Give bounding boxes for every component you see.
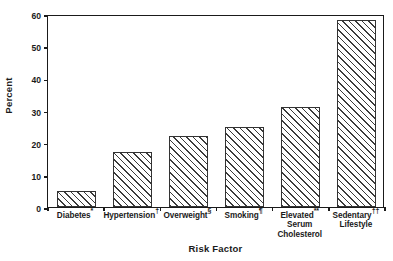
x-axis-category-label: Overweight§: [155, 211, 219, 220]
bar: [57, 191, 96, 207]
plot-frame: 0102030405060: [47, 15, 384, 208]
bar-chart-figure: Percent 0102030405060 Diabetes*Hypertens…: [0, 0, 393, 261]
category-label-footnote-marker: ¶: [259, 207, 263, 214]
x-axis-category-label: Hypertension†: [99, 211, 163, 220]
category-label-line1: Sedentary: [332, 211, 371, 220]
y-axis-tick-label: 0: [36, 203, 41, 215]
category-label-line1: Overweight: [163, 211, 207, 220]
bar: [337, 20, 376, 207]
category-label-line1: Diabetes: [57, 211, 91, 220]
y-axis-tick-mark: [44, 15, 48, 16]
y-axis-tick-label: 30: [31, 107, 41, 119]
category-label-line2: Lifestyle: [324, 220, 388, 229]
plot-area: 0102030405060: [48, 16, 383, 207]
y-axis-tick-mark: [44, 112, 48, 113]
bar: [169, 136, 208, 207]
y-axis-tick-label: 10: [31, 171, 41, 183]
bar: [113, 152, 152, 207]
x-axis-category-label: Sedentary††Lifestyle: [324, 211, 388, 230]
y-axis-tick-label: 40: [31, 74, 41, 86]
category-label-footnote-marker: *: [91, 207, 94, 214]
category-label-line1: Smoking: [225, 211, 259, 220]
y-axis-tick-mark: [44, 47, 48, 48]
y-axis-tick-mark: [44, 80, 48, 81]
y-axis-tick-label: 50: [31, 42, 41, 54]
y-axis-title: Percent: [3, 66, 14, 126]
x-axis-category-label: Elevated**SerumCholesterol: [268, 211, 332, 239]
x-axis-title: Risk Factor: [47, 243, 384, 254]
bar: [281, 107, 320, 207]
y-axis-tick-mark: [44, 144, 48, 145]
category-label-footnote-marker: **: [314, 207, 319, 214]
y-axis-tick-mark: [44, 176, 48, 177]
category-label-line3: Cholesterol: [268, 230, 332, 239]
x-axis-category-label: Smoking¶: [212, 211, 276, 220]
x-axis-category-label: Diabetes*: [43, 211, 107, 220]
y-axis-tick-label: 60: [31, 10, 41, 22]
category-label-line1: Hypertension: [103, 211, 155, 220]
category-label-line2: Serum: [268, 220, 332, 229]
category-label-footnote-marker: ††: [372, 207, 380, 214]
category-label-line1: Elevated: [280, 211, 313, 220]
y-axis-tick-label: 20: [31, 139, 41, 151]
bar: [225, 127, 264, 207]
